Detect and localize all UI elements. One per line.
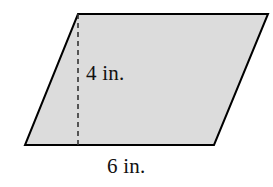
base-label: 6 in. bbox=[107, 156, 145, 177]
parallelogram-shape bbox=[25, 14, 268, 145]
geometry-figure-canvas: 4 in. 6 in. bbox=[0, 0, 273, 187]
height-label: 4 in. bbox=[86, 63, 124, 84]
